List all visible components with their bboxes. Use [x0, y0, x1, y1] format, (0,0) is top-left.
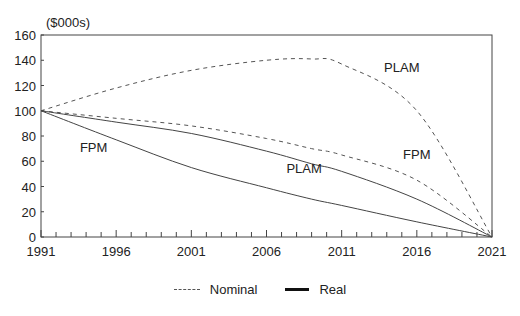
- series-real-plam: [41, 111, 492, 237]
- legend-label: Real: [319, 282, 346, 297]
- x-tick-label: 2001: [177, 244, 206, 259]
- y-tick-label: 160: [14, 28, 36, 43]
- legend-label: Nominal: [210, 282, 258, 297]
- y-axis: 020406080100120140160: [14, 28, 44, 245]
- annotation-label: PLAM: [286, 161, 321, 176]
- legend-item-nominal: Nominal: [174, 282, 258, 297]
- x-tick-label: 2021: [478, 244, 507, 259]
- x-tick-label: 1991: [27, 244, 56, 259]
- legend-item-real: Real: [285, 282, 346, 297]
- line-chart: ($000s) 020406080100120140160 1991199620…: [0, 0, 520, 316]
- x-tick-label: 2006: [252, 244, 281, 259]
- annotation-label: FPM: [403, 147, 430, 162]
- x-axis: 1991199620012006201120162021: [27, 230, 507, 259]
- x-tick-label: 1996: [102, 244, 131, 259]
- dashed-line-swatch: [174, 289, 200, 290]
- y-tick-label: 20: [22, 205, 36, 220]
- y-tick-label: 100: [14, 104, 36, 119]
- y-axis-label: ($000s): [46, 15, 90, 30]
- y-tick-label: 0: [29, 230, 36, 245]
- series-real-fpm: [41, 111, 492, 237]
- y-tick-label: 120: [14, 79, 36, 94]
- x-tick-label: 2016: [402, 244, 431, 259]
- y-tick-label: 60: [22, 154, 36, 169]
- annotation-label: PLAM: [384, 60, 419, 75]
- solid-line-swatch: [285, 288, 309, 291]
- y-tick-label: 80: [22, 129, 36, 144]
- legend: Nominal Real: [0, 282, 520, 297]
- annotation-label: FPM: [80, 140, 107, 155]
- annotations: PLAMFPMPLAMFPM: [80, 60, 431, 176]
- x-tick-label: 2011: [328, 244, 356, 259]
- y-tick-label: 140: [14, 53, 36, 68]
- series-nominal-fpm: [41, 111, 492, 237]
- plot-frame: [41, 35, 492, 237]
- y-tick-label: 40: [22, 180, 36, 195]
